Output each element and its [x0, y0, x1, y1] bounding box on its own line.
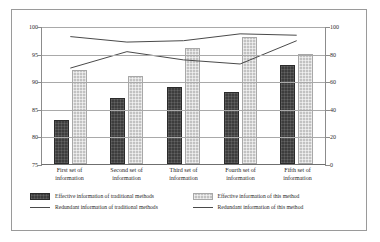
category-label-line: Fifth set of	[269, 167, 326, 175]
right-axis-tick-label: 80	[330, 52, 336, 58]
gridline	[42, 55, 325, 56]
gridline	[42, 137, 325, 138]
category-label-line: information	[269, 175, 326, 183]
category-label-line: Second set of	[98, 167, 155, 175]
chart-figure: 7580859095100020406080100 First set ofin…	[0, 0, 380, 242]
right-axis-tick-label: 0	[330, 162, 333, 168]
category-label: Fifth set ofinformation	[269, 167, 326, 182]
category-axis-labels: First set ofinformationSecond set ofinfo…	[41, 167, 326, 182]
bar	[167, 87, 182, 164]
right-axis-tick-mark	[325, 27, 330, 28]
legend-label: Redundant information of this method	[218, 204, 304, 211]
right-axis-tick-label: 40	[330, 107, 336, 113]
category-label: First set ofinformation	[41, 167, 98, 182]
bar	[54, 120, 69, 164]
bar-pair	[155, 27, 212, 164]
bar	[72, 70, 87, 164]
bar-group	[42, 27, 99, 164]
bar-pair	[268, 27, 325, 164]
category-label-line: First set of	[41, 167, 98, 175]
plot-area: 7580859095100020406080100	[41, 27, 326, 165]
legend-item[interactable]: Effective information of this method	[193, 193, 356, 200]
right-axis-tick-label: 20	[330, 134, 336, 140]
bar-group	[155, 27, 212, 164]
category-label-line: information	[41, 175, 98, 183]
gridline	[42, 82, 325, 83]
bar	[110, 98, 125, 164]
chart-legend: Effective information of traditional met…	[30, 193, 355, 211]
right-axis-tick-mark	[325, 137, 330, 138]
gridline	[42, 27, 325, 28]
gridline	[42, 110, 325, 111]
category-label-line: information	[98, 175, 155, 183]
category-label: Second set ofinformation	[98, 167, 155, 182]
legend-bar-swatch-icon	[30, 193, 50, 200]
right-axis-tick-mark	[325, 110, 330, 111]
bar-group-container	[42, 27, 325, 164]
legend-line-swatch-icon	[193, 204, 213, 211]
bar-group	[212, 27, 269, 164]
bar	[185, 48, 200, 164]
left-axis-tick-mark	[37, 110, 42, 111]
bar-pair	[42, 27, 99, 164]
legend-bar-swatch-icon	[193, 193, 213, 200]
left-axis-tick-mark	[37, 165, 42, 166]
bar-pair	[212, 27, 269, 164]
left-axis-tick-mark	[37, 82, 42, 83]
bar-group	[268, 27, 325, 164]
bar	[128, 76, 143, 164]
bar	[242, 37, 257, 164]
left-axis-tick-mark	[37, 137, 42, 138]
legend-line-swatch-icon	[30, 204, 50, 211]
legend-item[interactable]: Redundant information of traditional met…	[30, 204, 193, 211]
bar-group	[99, 27, 156, 164]
legend-label: Effective information of traditional met…	[55, 193, 154, 200]
bar	[224, 92, 239, 164]
left-axis-tick-mark	[37, 27, 42, 28]
category-label: Third set ofinformation	[155, 167, 212, 182]
legend-item[interactable]: Effective information of traditional met…	[30, 193, 193, 200]
right-axis-tick-mark	[325, 82, 330, 83]
legend-label: Redundant information of traditional met…	[55, 204, 158, 211]
category-label-line: information	[155, 175, 212, 183]
bar	[298, 54, 313, 164]
bar-pair	[99, 27, 156, 164]
category-label-line: Third set of	[155, 167, 212, 175]
category-label-line: Fourth set of	[212, 167, 269, 175]
category-label: Fourth set ofinformation	[212, 167, 269, 182]
right-axis-tick-label: 60	[330, 79, 336, 85]
legend-item[interactable]: Redundant information of this method	[193, 204, 356, 211]
left-axis-tick-mark	[37, 55, 42, 56]
bar	[280, 65, 295, 164]
legend-label: Effective information of this method	[218, 193, 300, 200]
right-axis-tick-mark	[325, 165, 330, 166]
category-label-line: information	[212, 175, 269, 183]
right-axis-tick-mark	[325, 55, 330, 56]
right-axis-tick-label: 100	[330, 24, 339, 30]
